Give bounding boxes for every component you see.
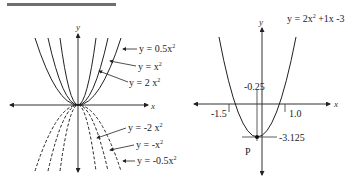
label-0.5x2: y = 0.5x2	[139, 43, 175, 54]
vertex-x-label: -0.25	[244, 81, 265, 92]
equation-label: y = 2x2 +1x -3	[287, 13, 345, 24]
leader-arrow	[97, 128, 126, 138]
figure-canvas: y x y = 0.5x2 y = x2 y = 2 x2 y =	[0, 0, 354, 180]
left-y-label: y	[75, 22, 80, 32]
root-left-label: -1.5	[211, 108, 227, 119]
vertex-y-label: -3.125	[279, 132, 305, 143]
vertex-point	[255, 135, 259, 139]
right-y-label: y	[258, 17, 263, 27]
label-2x2: y = 2 x2	[129, 77, 160, 88]
leader-arrow	[110, 145, 134, 150]
right-x-label: x	[333, 99, 338, 109]
leader-arrow	[99, 71, 128, 82]
root-right-label: 1.0	[289, 108, 302, 119]
left-x-label: x	[150, 101, 155, 111]
label-x2: y = x2	[138, 61, 162, 72]
right-panel: y = 2x2 +1x -3 y x -0.25 -1.5 1.0 -3.125…	[194, 13, 345, 175]
label-neg0.5x2: y = -0.5x2	[137, 155, 176, 166]
leader-arrow	[110, 61, 136, 66]
label-negx2: y = -x2	[136, 139, 163, 150]
vertex-name-label: P	[245, 146, 251, 157]
left-panel: y x y = 0.5x2 y = x2 y = 2 x2 y =	[10, 22, 176, 172]
label-neg2x2: y = -2 x2	[128, 122, 162, 133]
